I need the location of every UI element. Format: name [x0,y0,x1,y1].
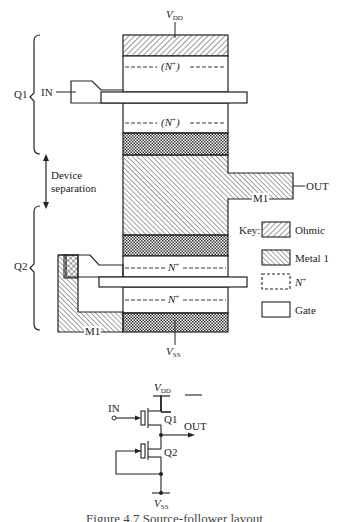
key-metal1-swatch [262,250,290,265]
vdd-label: VDD [166,9,183,22]
m1-label-left: M1 [84,326,101,337]
schematic-in-label: IN [108,403,120,414]
schematic-q2-label: Q2 [164,447,177,458]
key-gate-swatch [262,302,290,317]
out-arrow-icon [188,433,195,438]
n-plus-paren-label: (N+) [160,61,181,72]
schematic [116,395,202,493]
schematic-vdd-label: VDD [154,382,171,395]
device-separation-label-2: separation [51,183,96,194]
q2-gate [99,277,247,287]
out-label: OUT [306,181,329,192]
key-metal1-label: Metal 1 [295,253,329,264]
key-title: Key: [239,225,260,236]
n-plus-label: N+ [168,262,179,273]
key-nplus-swatch [262,274,290,289]
contact-region-1 [123,133,228,155]
arrow-right-icon [135,449,141,454]
figure-caption: Figure 4.7 Source-follower layout [0,512,349,522]
junction-dot [159,472,163,476]
schematic-out-label: OUT [184,421,207,432]
junction-dot [159,433,163,437]
junction-dot [159,491,163,495]
key-ohmic-label: Ohmic [295,225,325,236]
key-nplus-label: N+ [295,277,306,288]
schematic-vss-label: VSS [154,498,169,511]
m1-label-right: M1 [252,193,269,204]
key-gate-label: Gate [295,305,316,316]
q2-label: Q2 [14,261,27,272]
input-terminal [112,416,116,420]
schematic-q1-label: Q1 [164,414,177,425]
contact-region-2 [123,235,228,256]
q1-bracket [30,35,40,154]
arrow-up-icon [43,154,49,161]
vss-label: VSS [166,346,181,359]
device-separation-label-1: Device [51,170,82,181]
key-ohmic-swatch [262,222,290,237]
arrow-down-icon [43,202,49,209]
ohmic-top-region [123,35,228,56]
in-label: IN [41,87,53,98]
q1-label: Q1 [14,89,27,100]
q1-gate [101,92,247,103]
q2-bracket [30,206,40,330]
arrow-right-icon [135,416,141,421]
n-plus-label: N+ [168,294,179,305]
n-plus-paren-label: (N+) [160,117,181,128]
